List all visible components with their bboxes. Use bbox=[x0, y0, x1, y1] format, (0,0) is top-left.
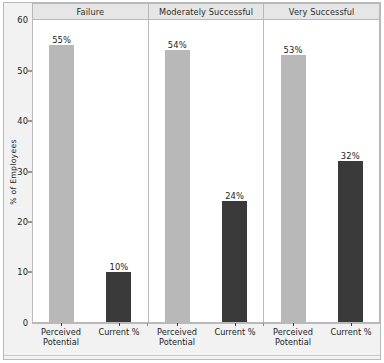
bar-value-label: 53% bbox=[284, 45, 303, 55]
x-tick-label-line2: Potential bbox=[148, 337, 206, 347]
bar-value-label: 24% bbox=[225, 191, 244, 201]
bar-perceived-potential[interactable] bbox=[49, 45, 74, 322]
y-tick-label-0: 0 bbox=[23, 318, 28, 328]
x-tick-mark bbox=[177, 323, 178, 326]
x-tick-mark bbox=[119, 323, 120, 326]
bar-value-label: 10% bbox=[110, 262, 129, 272]
figure-bottom-divider bbox=[4, 355, 380, 356]
y-tick-label-50: 50 bbox=[17, 66, 28, 76]
panel-header-label: Moderately Successful bbox=[159, 7, 253, 17]
x-axis: Perceived Potential Current % Perceived … bbox=[32, 323, 380, 357]
x-tick-label: Current % bbox=[206, 327, 264, 337]
y-axis-title: % of Employees bbox=[9, 122, 18, 222]
x-tick-label-line1: Perceived bbox=[264, 327, 322, 337]
bar-value-label: 54% bbox=[168, 40, 187, 50]
x-tick-label-line1: Perceived bbox=[32, 327, 90, 337]
y-axis: % of Employees 60 50 40 30 20 10 0 bbox=[0, 20, 32, 323]
bar-perceived-potential[interactable] bbox=[281, 55, 306, 322]
panel-header-strip: Failure Moderately Successful Very Succe… bbox=[32, 3, 380, 20]
bar-current-percent[interactable] bbox=[338, 161, 363, 322]
y-tick-label-10: 10 bbox=[17, 267, 28, 277]
x-tick-mark bbox=[351, 323, 352, 326]
bar-slot-perceived-potential: 53% bbox=[264, 20, 321, 322]
panel-bars: 53% 32% bbox=[264, 20, 379, 322]
y-tick-label-60: 60 bbox=[17, 15, 28, 25]
x-tick-perceived-potential: Perceived Potential bbox=[32, 323, 90, 357]
panel-header-label: Failure bbox=[77, 7, 105, 17]
x-panel-very-successful: Perceived Potential Current % bbox=[264, 323, 380, 357]
panel-header-very-successful: Very Successful bbox=[263, 3, 380, 20]
bar-slot-perceived-potential: 55% bbox=[33, 20, 90, 322]
x-tick-label-line2: Potential bbox=[264, 337, 322, 347]
bar-value-label: 55% bbox=[52, 35, 71, 45]
x-tick-label: Current % bbox=[90, 327, 148, 337]
x-tick-label-line2: Potential bbox=[32, 337, 90, 347]
panel-header-moderately-successful: Moderately Successful bbox=[148, 3, 264, 20]
panel-header-label: Very Successful bbox=[289, 7, 355, 17]
panel-moderately-successful: 54% 24% bbox=[149, 20, 265, 322]
panel-very-successful: 53% 32% bbox=[264, 20, 379, 322]
x-tick-perceived-potential: Perceived Potential bbox=[264, 323, 322, 357]
y-tick-label-30: 30 bbox=[17, 167, 28, 177]
x-panel-moderately-successful: Perceived Potential Current % bbox=[148, 323, 264, 357]
x-tick-label: Current % bbox=[322, 327, 380, 337]
panel-bars: 55% 10% bbox=[33, 20, 148, 322]
x-tick-label-line1: Perceived bbox=[148, 327, 206, 337]
panel-failure: 55% 10% bbox=[33, 20, 149, 322]
panel-bars: 54% 24% bbox=[149, 20, 264, 322]
x-tick-current-percent: Current % bbox=[206, 323, 264, 357]
bar-slot-current-percent: 10% bbox=[90, 20, 147, 322]
x-tick-mark bbox=[293, 323, 294, 326]
x-tick-current-percent: Current % bbox=[90, 323, 148, 357]
panel-header-failure: Failure bbox=[32, 3, 148, 20]
bar-current-percent[interactable] bbox=[106, 272, 131, 322]
bar-slot-current-percent: 32% bbox=[322, 20, 379, 322]
x-tick-mark bbox=[235, 323, 236, 326]
y-tick-label-40: 40 bbox=[17, 116, 28, 126]
bar-perceived-potential[interactable] bbox=[165, 50, 190, 322]
x-panel-failure: Perceived Potential Current % bbox=[32, 323, 148, 357]
bar-current-percent[interactable] bbox=[222, 201, 247, 322]
bar-slot-current-percent: 24% bbox=[206, 20, 263, 322]
x-tick-perceived-potential: Perceived Potential bbox=[148, 323, 206, 357]
y-tick-label-20: 20 bbox=[17, 217, 28, 227]
bar-slot-perceived-potential: 54% bbox=[149, 20, 206, 322]
x-tick-mark bbox=[61, 323, 62, 326]
bar-chart-figure: Failure Moderately Successful Very Succe… bbox=[0, 0, 384, 363]
plot-area: 55% 10% 54% 24% bbox=[32, 20, 380, 323]
bar-value-label: 32% bbox=[341, 151, 360, 161]
x-tick-current-percent: Current % bbox=[322, 323, 380, 357]
